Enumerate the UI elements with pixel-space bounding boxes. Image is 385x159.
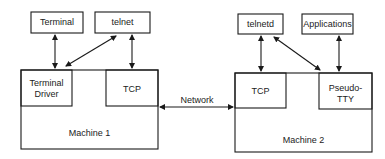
- terminal-driver-label-2: Driver: [21, 89, 72, 99]
- machine2-tcp-label: TCP: [235, 86, 286, 96]
- machine1-tcp-label: TCP: [106, 84, 158, 94]
- telnetd-pty-arrow: [274, 37, 320, 70]
- terminal-driver-label-1: Terminal: [21, 78, 72, 88]
- terminal-driver-box: [21, 70, 72, 106]
- applications-label: Applications: [302, 19, 353, 29]
- machine2-label: Machine 2: [235, 135, 372, 145]
- telnet-driver-arrow: [66, 36, 116, 66]
- terminal-label: Terminal: [31, 17, 83, 27]
- pseudo-tty-label-1: Pseudo-: [319, 83, 372, 93]
- machine1-label: Machine 1: [21, 128, 158, 138]
- telnetd-label: telnetd: [238, 19, 283, 29]
- pseudo-tty-label-2: TTY: [319, 94, 372, 104]
- network-label: Network: [162, 95, 232, 105]
- telnet-label: telnet: [95, 17, 150, 27]
